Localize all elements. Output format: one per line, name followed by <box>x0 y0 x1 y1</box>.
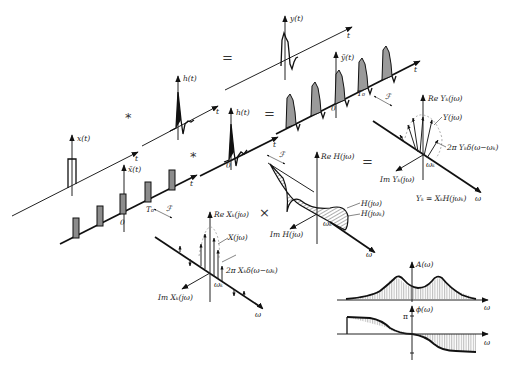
h-frequency-response-curve <box>270 164 348 230</box>
amplitude-label: A(ω) <box>415 260 433 269</box>
pulse-3 <box>120 194 126 214</box>
amplitude-plot: A(ω) ω <box>337 260 490 312</box>
x-tilde-origin: 0 <box>120 218 125 227</box>
h-omega-axis-left <box>268 163 314 192</box>
y-line-label: 2π Yₖδ(ω−ωₖ) <box>446 143 498 152</box>
x-tilde-period: T₀ <box>146 205 154 214</box>
y-freq-label: ωₖ <box>426 160 435 169</box>
h-t-mid-origin: 0 <box>226 161 231 170</box>
x-tilde-axis-label: t <box>190 179 194 188</box>
y-tilde-axis-label: t <box>414 65 418 74</box>
h-curve-label: H(jω) <box>360 199 382 208</box>
y-spectrum-im-label: Im Yₖ(jω) <box>379 175 415 184</box>
x-tilde-plot: x̃(t) 0 T₀ t <box>60 165 197 244</box>
pulse-2 <box>97 206 103 226</box>
h-t-top-impulse-response <box>170 92 194 134</box>
equals-operator-freq: = <box>362 154 373 169</box>
h-freq-label: ωₖ <box>323 219 332 228</box>
x-tilde-label: x̃(t) <box>128 165 141 174</box>
y-spectrum-plot: Re Yₖ(jω) Im Yₖ(jω) Y(jω) 2π Yₖδ(ω−ωₖ) ω… <box>373 94 498 203</box>
h-omega-axis <box>330 222 374 252</box>
h-im-axis <box>290 214 317 229</box>
h-im-label: Im H(jω) <box>269 230 303 239</box>
fourier-symbol-y: ℱ <box>385 92 393 101</box>
x-envelope <box>199 227 219 258</box>
h-point-label: H(jωₖ) <box>360 209 385 218</box>
y-omega-label: ω <box>475 194 481 203</box>
equals-operator-mid: = <box>264 106 275 121</box>
x-t-axis <box>12 152 138 216</box>
phase-label: ϕ(ω) <box>416 305 433 314</box>
y-spectrum-re-label: Re Yₖ(jω) <box>427 94 463 103</box>
x-t-label: x(t) <box>77 134 90 143</box>
y-t-axis <box>225 27 352 90</box>
x-spectrum-im-label: Im Xₖ(jω) <box>157 293 193 302</box>
pulse-1 <box>73 218 79 238</box>
y-t-label: y(t) <box>289 14 303 23</box>
fourier-symbol-x: ℱ <box>166 204 174 213</box>
phase-omega-label: ω <box>484 338 490 347</box>
x-spectrum-re-label: Re Xₖ(jω) <box>213 210 249 219</box>
h-t-mid-impulse-response <box>224 124 247 166</box>
y-equation: Yₖ = XₖH(jωₖ) <box>416 194 466 203</box>
convolve-operator-top: * <box>125 110 132 125</box>
equals-operator-top: = <box>222 50 233 65</box>
convolve-operator-mid: * <box>190 149 197 164</box>
h-t-top-label: h(t) <box>183 74 197 83</box>
y-spectrum-im-axis <box>396 155 423 171</box>
h-t-mid-axis-label: t <box>273 140 277 149</box>
y-tilde-period: T₀ <box>357 89 365 98</box>
pulse-4 <box>145 182 151 202</box>
h-t-mid-label: h(t) <box>236 108 250 117</box>
y-t-response-curve <box>281 33 298 69</box>
h-t-top-axis-label: t <box>216 107 220 116</box>
phase-tick-pi-label: π <box>403 312 408 321</box>
x-spectrum-im-axis <box>182 273 210 289</box>
y-tilde-plot: ỹ(t) 0 T₀ t <box>276 46 420 134</box>
x-freq-label: ωₖ <box>214 280 223 289</box>
y-tilde-label: ỹ(t) <box>340 53 354 62</box>
h-re-label: Re H(jω) <box>320 152 354 161</box>
x-line-label: 2π Xₖδ(ω−ωₖ) <box>225 266 278 275</box>
fourier-arrow-y: ℱ <box>374 92 393 106</box>
phase-plot: π ϕ(ω) ω <box>337 305 490 360</box>
y-t-axis-label: t <box>347 31 351 40</box>
amplitude-omega-label: ω <box>484 303 490 312</box>
y-tilde-origin: 0 <box>331 104 336 113</box>
x-t-axis-label: t <box>135 154 139 163</box>
y-t-plot: y(t) t <box>225 14 352 90</box>
y-tilde-axis <box>276 62 418 134</box>
h-omega-label: ω <box>366 250 372 259</box>
x-envelope-label: X(jω) <box>227 233 248 242</box>
x-spectral-lines <box>180 234 244 296</box>
fourier-arrow-x: ℱ <box>154 204 174 218</box>
x-omega-label: ω <box>255 310 261 319</box>
multiply-operator: × <box>259 205 270 220</box>
signal-system-diagram: x(t) t * h(t) t = y(t) t x̃(t) 0 T₀ t * <box>0 0 514 371</box>
y-envelope-label: Y(jω) <box>443 113 462 122</box>
x-spectrum-plot: Re Xₖ(jω) Im Xₖ(jω) X(jω) 2π Xₖδ(ω−ωₖ) ω… <box>155 210 278 319</box>
fourier-symbol-h: ℱ <box>279 150 287 159</box>
h-t-top-plot: h(t) t <box>142 74 220 146</box>
fourier-arrow-h: ℱ <box>267 150 287 164</box>
pulse-5 <box>169 170 175 190</box>
